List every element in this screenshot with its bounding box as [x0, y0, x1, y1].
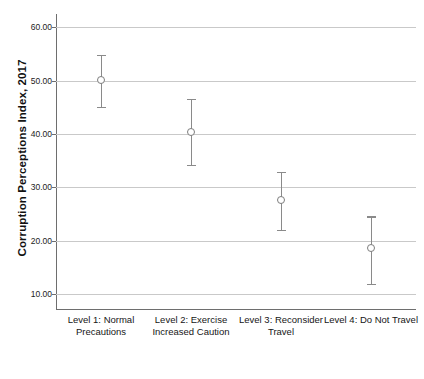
data-point-marker	[277, 196, 285, 204]
x-axis-category-labels: Level 1: Normal PrecautionsLevel 2: Exer…	[56, 314, 416, 376]
y-axis-tick-label: 10.00	[31, 289, 52, 299]
plot-area	[56, 14, 416, 310]
y-axis-tick-mark	[52, 134, 56, 135]
data-point-marker	[367, 244, 375, 252]
gridline	[56, 187, 416, 188]
y-axis-tick-labels: 10.0020.0030.0040.0050.0060.00	[0, 0, 52, 379]
y-axis-tick-label: 60.00	[31, 22, 52, 32]
gridline	[56, 27, 416, 28]
gridline	[56, 294, 416, 295]
y-axis-tick-mark	[52, 294, 56, 295]
y-axis-tick-label: 50.00	[31, 76, 52, 86]
error-bar-cap-lower	[367, 284, 376, 285]
y-axis-tick-mark	[52, 241, 56, 242]
x-axis-category-label: Level 1: Normal Precautions	[49, 314, 153, 337]
y-axis-tick-mark	[52, 81, 56, 82]
error-bar-chart: Corruption Perceptions Index, 2017 10.00…	[0, 0, 424, 379]
gridline	[56, 241, 416, 242]
gridline	[56, 81, 416, 82]
x-axis-line	[56, 309, 416, 310]
x-axis-category-label: Level 3: Reconsider Travel	[229, 314, 333, 337]
y-axis-line	[56, 14, 57, 310]
data-point-marker	[187, 128, 195, 136]
x-axis-category-label: Level 2: Exercise Increased Caution	[139, 314, 243, 337]
data-point-marker	[97, 76, 105, 84]
error-bar-cap-upper	[367, 216, 376, 217]
error-bar-cap-upper	[97, 55, 106, 56]
y-axis-tick-label: 40.00	[31, 129, 52, 139]
y-axis-tick-mark	[52, 187, 56, 188]
error-bar-cap-upper	[187, 99, 196, 100]
y-axis-tick-label: 30.00	[31, 182, 52, 192]
y-axis-tick-mark	[52, 27, 56, 28]
error-bar-cap-lower	[97, 107, 106, 108]
gridline	[56, 134, 416, 135]
error-bar-cap-upper	[277, 172, 286, 173]
error-bar-cap-lower	[277, 230, 286, 231]
x-axis-category-label: Level 4: Do Not Travel	[319, 314, 423, 326]
error-bar-cap-lower	[187, 165, 196, 166]
y-axis-tick-label: 20.00	[31, 236, 52, 246]
